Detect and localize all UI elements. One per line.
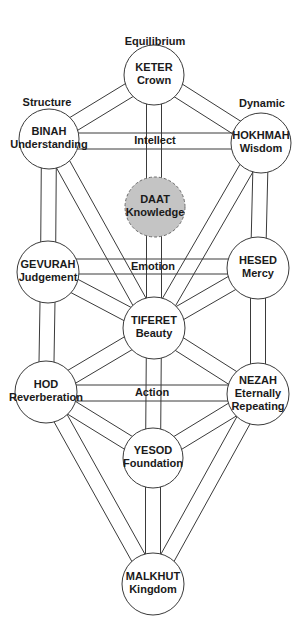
node-tiferet: TIFERETBeauty bbox=[123, 297, 185, 359]
node-binah: BINAHUnderstanding bbox=[10, 109, 88, 169]
node-gevurah: GEVURAHJudgement bbox=[17, 241, 79, 303]
node-name-binah: BINAH bbox=[32, 125, 67, 137]
nodes-layer: KETERCrownBINAHUnderstandingHOKHMAHWisdo… bbox=[9, 45, 291, 615]
bar-label-intellect: Intellect bbox=[134, 134, 176, 146]
node-meaning-hod: Reverberation bbox=[9, 391, 83, 403]
node-name-daat: DAAT bbox=[140, 193, 170, 205]
node-meaning-nezah: Eternally bbox=[235, 387, 282, 399]
node-nezah: NEZAHEternallyRepeating bbox=[227, 363, 289, 425]
node-name-yesod: YESOD bbox=[134, 444, 173, 456]
bar-label-action: Action bbox=[135, 386, 170, 398]
pillar-label-equilibrium: Equilibrium bbox=[125, 35, 186, 47]
node-name-hokhmah: HOKHMAH bbox=[232, 129, 289, 141]
node-name-nezah: NEZAH bbox=[239, 374, 277, 386]
node-meaning-tiferet: Beauty bbox=[136, 327, 174, 339]
node-name-gevurah: GEVURAH bbox=[20, 258, 75, 270]
node-meaning-hokhmah: Wisdom bbox=[240, 142, 283, 154]
node-name-keter: KETER bbox=[135, 61, 172, 73]
node-yesod: YESODFoundation bbox=[123, 428, 183, 488]
pillar-label-dynamic: Dynamic bbox=[239, 97, 285, 109]
node-hokhmah: HOKHMAHWisdom bbox=[231, 113, 291, 173]
node-meaning-daat: Knowledge bbox=[126, 206, 185, 218]
node-meaning-yesod: Foundation bbox=[123, 457, 183, 469]
node-meaning-gevurah: Judgement bbox=[19, 271, 78, 283]
node-hod: HODReverberation bbox=[9, 361, 83, 423]
node-name-hod: HOD bbox=[34, 378, 59, 390]
node-daat: DAATKnowledge bbox=[125, 177, 185, 237]
node-meaning-keter: Crown bbox=[137, 74, 172, 86]
node-name-malkhut: MALKHUT bbox=[126, 570, 181, 582]
node-hesed: HESEDMercy bbox=[227, 237, 289, 299]
node-keter: KETERCrown bbox=[124, 45, 184, 105]
node-malkhut: MALKHUTKingdom bbox=[122, 553, 184, 615]
node-meaning-malkhut: Kingdom bbox=[129, 583, 177, 595]
node-meaning-binah: Understanding bbox=[10, 138, 88, 150]
node-name-hesed: HESED bbox=[239, 254, 277, 266]
node-meaning-hesed: Mercy bbox=[242, 267, 275, 279]
bar-label-emotion: Emotion bbox=[131, 260, 175, 272]
pillar-label-structure: Structure bbox=[23, 96, 72, 108]
node-name-tiferet: TIFERET bbox=[131, 314, 177, 326]
bar-emotion: Emotion bbox=[48, 259, 258, 274]
node-meaning-nezah: Repeating bbox=[231, 400, 284, 412]
tree-of-life-diagram: IntellectEmotionAction KETERCrownBINAHUn… bbox=[0, 0, 305, 641]
